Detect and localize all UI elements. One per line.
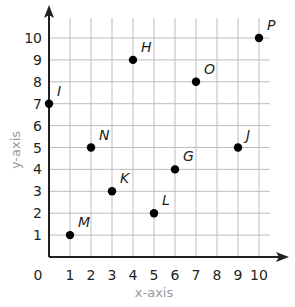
x-tick-label: 7 — [192, 267, 201, 283]
x-tick-label: 8 — [213, 267, 222, 283]
x-axis-label: x-axis — [135, 285, 174, 300]
x-tick-label: 3 — [108, 267, 117, 283]
y-tick-label: 5 — [33, 140, 42, 156]
point-label: K — [120, 170, 131, 186]
y-tick-labels: 12345678910 — [24, 30, 42, 243]
y-tick-label: 4 — [33, 161, 42, 177]
point-marker-icon — [129, 56, 137, 64]
scatter-chart: 012345678910 12345678910 IMNKHLGOJP x-ax… — [0, 0, 295, 307]
point-marker-icon — [192, 78, 200, 86]
x-tick-label: 5 — [150, 267, 159, 283]
y-tick-label: 7 — [33, 96, 42, 112]
y-axis-label: y-axis — [8, 131, 23, 169]
point-label: P — [267, 17, 276, 33]
x-tick-label: 9 — [234, 267, 243, 283]
point-marker-icon — [171, 165, 179, 173]
point-label: M — [78, 214, 90, 230]
y-tick-label: 8 — [33, 74, 42, 90]
point-label: L — [162, 192, 170, 208]
point-label: O — [204, 61, 215, 77]
y-tick-label: 2 — [33, 205, 42, 221]
point-label: N — [99, 127, 110, 143]
y-tick-label: 3 — [33, 183, 42, 199]
point-marker-icon — [87, 143, 95, 151]
point-marker-icon — [108, 187, 116, 195]
x-tick-label: 0 — [34, 267, 43, 283]
x-tick-labels: 012345678910 — [34, 267, 268, 283]
x-tick-label: 6 — [171, 267, 180, 283]
point-marker-icon — [234, 143, 242, 151]
x-tick-label: 1 — [66, 267, 75, 283]
point-label: G — [183, 148, 194, 164]
point-marker-icon — [255, 34, 263, 42]
point-label: J — [243, 127, 250, 143]
x-tick-label: 4 — [129, 267, 138, 283]
x-tick-label: 2 — [87, 267, 96, 283]
point-label: H — [141, 39, 152, 55]
point-marker-icon — [150, 209, 158, 217]
point-marker-icon — [45, 100, 53, 108]
y-tick-label: 1 — [33, 227, 42, 243]
y-tick-label: 10 — [24, 30, 42, 46]
y-tick-label: 9 — [33, 52, 42, 68]
point-label: I — [57, 83, 61, 99]
x-tick-label: 10 — [250, 267, 268, 283]
y-tick-label: 6 — [33, 118, 42, 134]
data-points: IMNKHLGOJP — [45, 17, 276, 239]
point-marker-icon — [66, 231, 74, 239]
